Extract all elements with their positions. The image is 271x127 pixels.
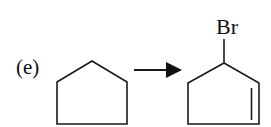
product-bromocyclopentene: Br [188, 14, 259, 124]
reaction-arrow [134, 62, 182, 78]
reactant-cyclopentane [57, 61, 127, 124]
bromine-label: Br [216, 14, 239, 39]
cyclopentene-ring [188, 63, 259, 124]
arrow-head-icon [166, 62, 182, 78]
cyclopentane-ring [57, 61, 127, 124]
reaction-diagram: (e) Br [0, 0, 271, 127]
part-label: (e) [16, 55, 39, 79]
